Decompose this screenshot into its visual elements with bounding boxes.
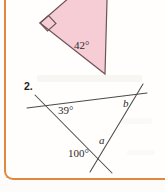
triangle-shape	[40, 0, 108, 74]
figure-problem-2-diagram	[12, 90, 165, 182]
page-frame-border: 42° 2. 39° 100° a b	[4, 0, 165, 180]
angle-label-42: 42°	[74, 40, 89, 51]
scanned-textbook-page: 42° 2. 39° 100° a b	[0, 0, 165, 192]
angle-label-39: 39°	[58, 105, 73, 116]
page-content-area: 42° 2. 39° 100° a b	[12, 0, 165, 176]
variable-label-a: a	[99, 135, 105, 146]
variable-label-b: b	[123, 98, 129, 109]
angle-label-100: 100°	[68, 148, 89, 159]
